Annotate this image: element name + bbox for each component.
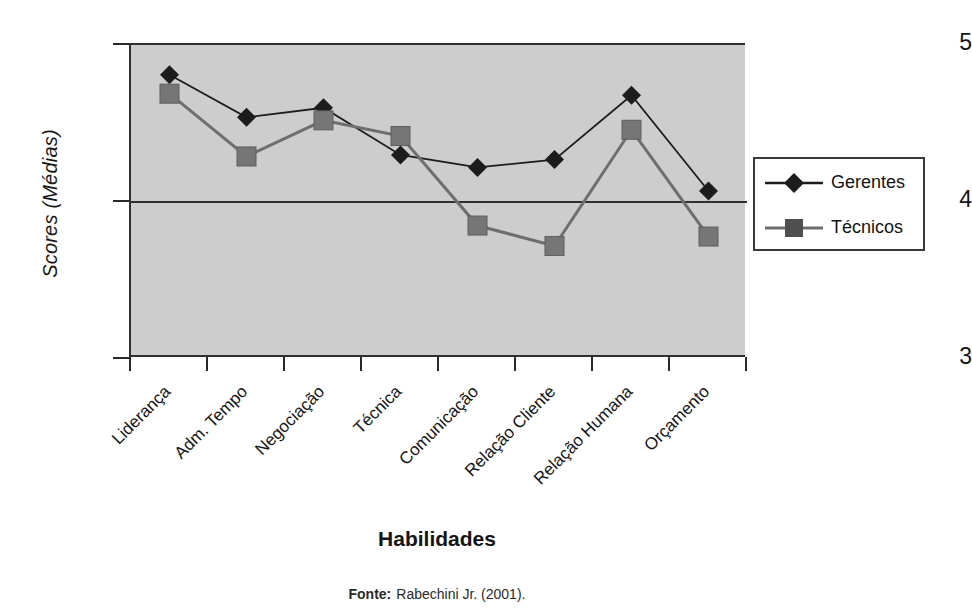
source-note-text: Rabechini Jr. (2001). [396, 586, 525, 602]
source-note: Fonte:Rabechini Jr. (2001). [129, 586, 745, 602]
x-tick-mark-4 [437, 357, 439, 371]
data-point-técnicos-1 [237, 147, 256, 166]
x-axis-label-6: Relação Humana [477, 382, 637, 542]
x-tick-mark-7 [668, 357, 670, 371]
x-axis-label-2: Negociação [169, 382, 329, 542]
data-point-técnicos-0 [160, 84, 179, 103]
plot-area [129, 43, 745, 357]
x-axis-label-7: Orçamento [554, 382, 714, 542]
x-tick-mark-1 [206, 357, 208, 371]
x-axis-label-0: Liderança [15, 382, 175, 542]
x-tick-mark-0 [129, 357, 131, 371]
y-tick-mark-5 [113, 43, 129, 45]
plot-series-svg [131, 45, 747, 359]
legend-marker-diamond-icon [763, 170, 825, 196]
data-point-técnicos-7 [699, 227, 718, 246]
data-point-técnicos-5 [545, 236, 564, 255]
chart-figure: Scores (Médias) 5 4 3 LiderançaAdm. Temp… [0, 0, 972, 615]
y-axis-title: Scores (Médias) [39, 94, 62, 314]
y-tick-mark-4 [113, 200, 129, 202]
x-axis-title: Habilidades [129, 527, 745, 551]
x-axis-label-4: Comunicação [323, 382, 483, 542]
data-point-técnicos-2 [314, 111, 333, 130]
data-point-gerentes-0 [160, 65, 179, 84]
x-tick-mark-8 [745, 357, 747, 371]
x-axis-label-3: Técnica [246, 382, 406, 542]
legend-marker-square-icon [763, 215, 825, 241]
legend-item-tecnicos[interactable]: Técnicos [755, 204, 923, 251]
data-point-técnicos-3 [391, 127, 410, 146]
x-tick-mark-3 [360, 357, 362, 371]
data-point-gerentes-7 [699, 182, 718, 201]
chart-legend: Gerentes Técnicos [753, 157, 925, 251]
y-tick-label-3: 3 [946, 345, 972, 368]
x-tick-mark-5 [514, 357, 516, 371]
data-point-gerentes-1 [237, 108, 256, 127]
x-tick-mark-6 [591, 357, 593, 371]
y-tick-mark-3 [113, 357, 129, 359]
data-point-gerentes-4 [468, 158, 487, 177]
x-axis-label-5: Relação Cliente [400, 382, 560, 542]
x-axis-label-1: Adm. Tempo [92, 382, 252, 542]
data-point-técnicos-4 [468, 216, 487, 235]
legend-label-tecnicos: Técnicos [831, 217, 903, 238]
data-point-gerentes-3 [391, 145, 410, 164]
data-point-técnicos-6 [622, 120, 641, 139]
y-tick-label-5: 5 [946, 31, 972, 54]
source-note-label: Fonte: [349, 586, 392, 602]
x-tick-mark-2 [283, 357, 285, 371]
legend-item-gerentes[interactable]: Gerentes [755, 159, 923, 206]
legend-label-gerentes: Gerentes [831, 172, 905, 193]
y-tick-label-4: 4 [946, 188, 972, 211]
